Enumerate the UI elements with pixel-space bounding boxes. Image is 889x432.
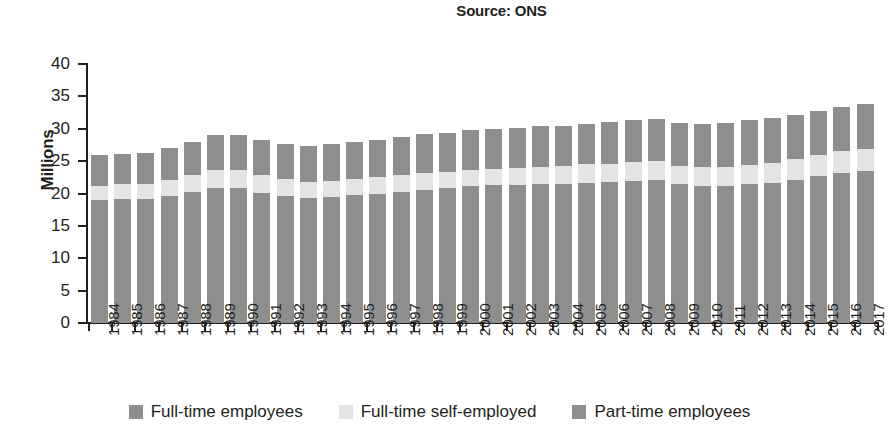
bar-segment — [717, 123, 734, 167]
bar-segment — [671, 184, 688, 323]
bar-segment — [114, 154, 131, 184]
bar-segment — [833, 151, 850, 172]
x-axis-tick-label: 2008 — [662, 303, 677, 336]
bar-segment — [161, 180, 178, 196]
bar-segment — [485, 185, 502, 323]
bar-segment — [625, 162, 642, 181]
bar-segment — [253, 140, 270, 175]
x-axis-tick-label: 2001 — [500, 303, 515, 336]
bar-segment — [184, 142, 201, 175]
bar-segment — [532, 167, 549, 184]
bar-segment — [485, 129, 502, 168]
bar-stack — [439, 133, 456, 323]
bar-segment — [764, 183, 781, 323]
bar-segment — [787, 115, 804, 160]
bar-stack — [369, 140, 386, 323]
bar-stack — [787, 115, 804, 323]
x-axis-tick-label: 1992 — [291, 303, 306, 336]
bar-stack — [114, 154, 131, 323]
legend-swatch-square — [572, 405, 586, 419]
bar-segment — [230, 170, 247, 188]
bar-stack — [137, 153, 154, 323]
legend-item[interactable]: Full-time self-employed — [339, 402, 537, 422]
x-axis-tick-label: 2004 — [570, 303, 585, 336]
x-axis-tick-label: 1985 — [129, 303, 144, 336]
x-axis-tick-label: 1988 — [198, 303, 213, 336]
bar-segment — [346, 142, 363, 179]
bar-stack — [833, 107, 850, 323]
bar-segment — [323, 181, 340, 198]
x-axis-tick-label: 1991 — [268, 303, 283, 336]
bar-segment — [671, 123, 688, 166]
bar-segment — [369, 140, 386, 178]
bar-segment — [509, 185, 526, 323]
bar-segment — [717, 167, 734, 186]
bar-segment — [555, 126, 572, 167]
bar-stack — [253, 140, 270, 323]
legend-item[interactable]: Part-time employees — [572, 402, 750, 422]
bar-stack — [694, 124, 711, 323]
bar-stack — [509, 128, 526, 323]
bar-segment — [787, 180, 804, 323]
x-axis-tick-label: 2012 — [755, 303, 770, 336]
bar-stack — [625, 120, 642, 323]
x-axis-tick-label: 2009 — [686, 303, 701, 336]
bar-stack — [323, 144, 340, 323]
x-axis-tick-label: 2010 — [709, 303, 724, 336]
legend-item-label: Full-time self-employed — [361, 402, 537, 422]
bar-segment — [207, 170, 224, 188]
bar-stack — [300, 146, 317, 323]
bar-segment — [764, 118, 781, 163]
bar-segment — [416, 173, 433, 190]
bar-segment — [277, 144, 294, 179]
bar-segment — [810, 176, 827, 323]
bar-segment — [601, 164, 618, 182]
bar-stack — [532, 126, 549, 323]
bar-stack — [601, 122, 618, 323]
bar-segment — [137, 153, 154, 184]
bar-segment — [601, 122, 618, 163]
bar-segment — [277, 179, 294, 196]
bar-segment — [810, 111, 827, 156]
bar-stack — [717, 123, 734, 323]
x-axis-tick-label: 2011 — [732, 305, 747, 336]
x-axis-tick-label: 2016 — [848, 303, 863, 336]
bar-stack — [671, 123, 688, 323]
x-axis-tick-label: 2003 — [546, 303, 561, 336]
x-axis-tick-label: 2000 — [477, 303, 492, 336]
x-axis-tick-label: 1987 — [175, 303, 190, 336]
bar-segment — [485, 169, 502, 185]
bar-segment — [114, 184, 131, 199]
bar-segment — [764, 163, 781, 183]
legend-item[interactable]: Full-time employees — [129, 402, 303, 422]
bar-stack — [346, 142, 363, 323]
bar-segment — [625, 181, 642, 323]
bar-stack — [555, 126, 572, 323]
bar-stack — [648, 119, 665, 323]
x-axis-tick-label: 1986 — [152, 303, 167, 336]
chart-legend: Full-time employeesFull-time self-employ… — [0, 402, 879, 422]
bar-segment — [369, 177, 386, 194]
bar-segment — [137, 184, 154, 200]
bar-segment — [439, 133, 456, 172]
bar-segment — [253, 175, 270, 192]
x-axis-tick-label: 2002 — [523, 303, 538, 336]
x-axis-tick-label: 1996 — [384, 303, 399, 336]
bar-segment — [648, 119, 665, 161]
bar-stack — [277, 144, 294, 323]
bar-segment — [462, 170, 479, 186]
bar-segment — [207, 135, 224, 170]
bar-segment — [694, 186, 711, 323]
bar-segment — [671, 166, 688, 185]
bar-segment — [578, 164, 595, 182]
bar-segment — [717, 186, 734, 323]
bar-stack — [741, 120, 758, 323]
bar-stack — [91, 155, 108, 323]
bar-stack — [764, 118, 781, 323]
bar-segment — [416, 134, 433, 173]
bar-stack — [485, 129, 502, 323]
bar-segment — [230, 135, 247, 170]
bar-stack — [393, 137, 410, 323]
legend-item-label: Part-time employees — [594, 402, 750, 422]
